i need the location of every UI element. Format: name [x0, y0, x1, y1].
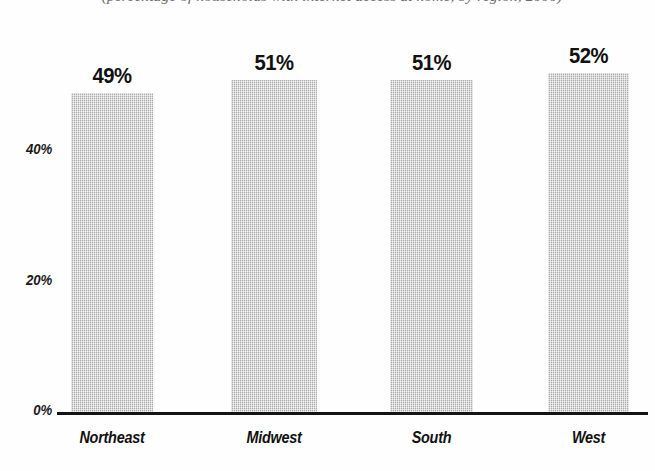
y-axis-tick-20: 20%	[0, 271, 52, 289]
y-axis-tick-label-0: 0%	[6, 401, 52, 418]
x-axis-label-west: West	[525, 429, 652, 447]
bar-south	[390, 80, 473, 412]
value-label-south: 51%	[393, 50, 469, 76]
value-label-west: 52%	[551, 43, 626, 69]
bar-midwest	[231, 80, 317, 412]
bar-northeast	[71, 93, 153, 412]
x-axis-label-midwest: Midwest	[208, 429, 339, 447]
y-axis-tick-0: 0%	[0, 401, 52, 419]
bar-west	[548, 73, 629, 412]
x-axis-label-south: South	[367, 429, 496, 447]
bar-chart-figure: (percentage of households with internet …	[0, 0, 655, 471]
y-axis-tick-40: 40%	[0, 140, 52, 158]
x-axis-label-northeast: Northeast	[48, 429, 176, 447]
x-axis-line	[57, 412, 648, 415]
y-axis-tick-label-20: 20%	[6, 271, 52, 288]
value-label-midwest: 51%	[234, 50, 313, 76]
plot-area: 40% 20% 0% 49% 51% 51% 52% Northeast Mid…	[0, 0, 655, 471]
value-label-northeast: 49%	[74, 63, 149, 89]
y-axis-tick-label-40: 40%	[6, 140, 52, 157]
